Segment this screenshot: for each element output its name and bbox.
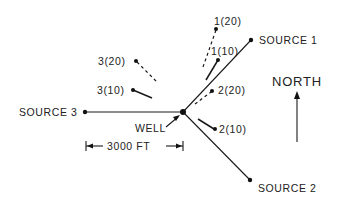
point-3-10-path (131, 88, 152, 98)
well-sources-diagram: SOURCE 1 SOURCE 2 SOURCE 3 WELL 1(20) 1(… (0, 0, 339, 202)
source-3-line (83, 110, 183, 114)
point-1-20-label: 1(20) (214, 15, 242, 27)
point-3-20-label: 3(20) (98, 55, 126, 67)
point-1-10-path (206, 58, 220, 80)
well-marker (180, 109, 186, 115)
source-3-label: SOURCE 3 (19, 106, 77, 118)
point-3-20-path (134, 59, 158, 83)
north-label: NORTH (272, 74, 322, 89)
north-arrow-icon (294, 91, 300, 142)
point-2-10-path (198, 119, 217, 131)
well-label: WELL (135, 122, 166, 134)
point-2-10-label: 2(10) (219, 123, 247, 135)
scale-bar-label: 3000 FT (107, 140, 150, 152)
source-1-label: SOURCE 1 (259, 34, 317, 46)
point-2-20-label: 2(20) (218, 84, 246, 96)
source-2-label: SOURCE 2 (258, 182, 316, 194)
point-3-10-label: 3(10) (97, 84, 125, 96)
point-1-10-label: 1(10) (211, 45, 239, 57)
well-pointer-arrow (166, 115, 180, 127)
